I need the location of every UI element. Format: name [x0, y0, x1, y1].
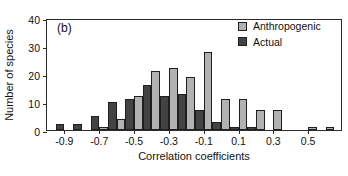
x-tick-label-6: 0.3	[266, 136, 281, 147]
x-tick-mark-0	[64, 130, 65, 134]
legend-swatch-icon-anthropogenic	[238, 22, 247, 31]
x-tick-label-4: -0.1	[195, 136, 213, 147]
x-tick-mark-5	[239, 130, 240, 134]
legend-item-anthropogenic: Anthropogenic	[238, 21, 321, 32]
legend-label-anthropogenic: Anthropogenic	[253, 21, 321, 32]
x-tick-label-3: -0.3	[160, 136, 178, 147]
y-tick-label-0: 0	[34, 127, 40, 138]
x-tick-mark-4	[204, 130, 205, 134]
y-tick-label-4: 40	[28, 15, 40, 26]
legend-item-actual: Actual	[238, 37, 321, 48]
figure-histogram-correlation-coefficients: Number of species 010203040 -0.9-0.7-0.5…	[0, 0, 348, 176]
x-tick-mark-1	[99, 130, 100, 134]
x-tick-mark-6	[273, 130, 274, 134]
legend: Anthropogenic Actual	[238, 21, 321, 52]
legend-label-actual: Actual	[253, 37, 282, 48]
y-tick-label-3: 30	[28, 43, 40, 54]
x-tick-label-0: -0.9	[55, 136, 73, 147]
y-tick-label-1: 10	[28, 99, 40, 110]
x-tick-mark-7	[308, 130, 309, 134]
y-tick-mark-0	[43, 132, 47, 133]
y-tick-mark-3	[43, 48, 47, 49]
y-tick-mark-2	[43, 76, 47, 77]
x-tick-label-7: 0.5	[301, 136, 316, 147]
panel-label: (b)	[57, 21, 72, 35]
x-tick-label-1: -0.7	[90, 136, 108, 147]
legend-swatch-icon-actual	[238, 37, 247, 46]
y-axis-title: Number of species	[3, 29, 15, 121]
x-tick-mark-2	[134, 130, 135, 134]
y-tick-mark-1	[43, 104, 47, 105]
x-tick-mark-3	[169, 130, 170, 134]
y-axis-title-wrapper: Number of species	[10, 19, 11, 131]
y-tick-mark-4	[43, 20, 47, 21]
x-tick-label-5: 0.1	[231, 136, 246, 147]
y-tick-label-2: 20	[28, 71, 40, 82]
x-tick-label-2: -0.5	[125, 136, 143, 147]
x-axis-title: Correlation coefficients	[46, 150, 342, 162]
